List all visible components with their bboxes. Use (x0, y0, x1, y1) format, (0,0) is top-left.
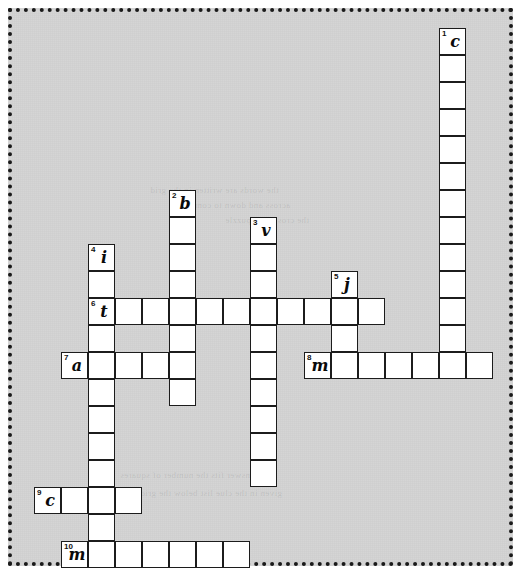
crossword-cell[interactable] (439, 271, 466, 298)
crossword-cell[interactable] (88, 514, 115, 541)
crossword-cell[interactable] (169, 271, 196, 298)
crossword-cell[interactable] (250, 433, 277, 460)
crossword-cell[interactable] (358, 352, 385, 379)
crossword-cell[interactable] (304, 298, 331, 325)
cell-letter: v (251, 218, 276, 243)
crossword-cell[interactable] (115, 352, 142, 379)
crossword-cell-numbered-3[interactable]: 3v (250, 217, 277, 244)
crossword-cell-numbered-1[interactable]: 1c (439, 28, 466, 55)
crossword-cell[interactable] (250, 298, 277, 325)
cell-letter: m (305, 353, 330, 378)
crossword-cell[interactable] (277, 298, 304, 325)
crossword-cell[interactable] (169, 541, 196, 568)
crossword-cell[interactable] (250, 244, 277, 271)
crossword-page: the words are written in the gridacross … (0, 0, 521, 574)
crossword-cell[interactable] (196, 298, 223, 325)
crossword-cell[interactable] (439, 325, 466, 352)
crossword-cell[interactable] (169, 379, 196, 406)
crossword-cell[interactable] (250, 271, 277, 298)
cell-letter: c (35, 488, 60, 513)
crossword-cell[interactable] (169, 244, 196, 271)
crossword-cell-numbered-8[interactable]: 8m (304, 352, 331, 379)
crossword-cell[interactable] (412, 352, 439, 379)
crossword-cell[interactable] (439, 163, 466, 190)
crossword-cell[interactable] (250, 325, 277, 352)
crossword-cell[interactable] (250, 460, 277, 487)
crossword-cell[interactable] (88, 433, 115, 460)
crossword-cell[interactable] (169, 298, 196, 325)
crossword-cell-numbered-5[interactable]: 5j (331, 271, 358, 298)
crossword-cell[interactable] (88, 460, 115, 487)
crossword-cell[interactable] (88, 406, 115, 433)
crossword-cell[interactable] (142, 352, 169, 379)
crossword-cell[interactable] (439, 190, 466, 217)
cell-letter: b (170, 191, 195, 216)
crossword-cell[interactable] (385, 352, 412, 379)
crossword-cell[interactable] (439, 217, 466, 244)
crossword-cell[interactable] (115, 541, 142, 568)
crossword-cell[interactable] (88, 352, 115, 379)
crossword-cell-numbered-4[interactable]: 4i (88, 244, 115, 271)
crossword-cell[interactable] (142, 298, 169, 325)
crossword-cell-numbered-2[interactable]: 2b (169, 190, 196, 217)
crossword-cell[interactable] (439, 55, 466, 82)
crossword-cell[interactable] (331, 298, 358, 325)
crossword-cell[interactable] (439, 136, 466, 163)
crossword-cell[interactable] (439, 82, 466, 109)
cell-letter: c (440, 29, 465, 54)
crossword-cell[interactable] (331, 325, 358, 352)
cell-letter: t (89, 299, 114, 324)
crossword-cell-numbered-6[interactable]: 6t (88, 298, 115, 325)
crossword-cell[interactable] (466, 352, 493, 379)
crossword-cell[interactable] (88, 325, 115, 352)
crossword-cell-numbered-9[interactable]: 9c (34, 487, 61, 514)
cell-letter: m (62, 542, 87, 567)
crossword-cell[interactable] (115, 487, 142, 514)
crossword-cell[interactable] (358, 298, 385, 325)
crossword-cell[interactable] (61, 487, 88, 514)
crossword-cell[interactable] (88, 271, 115, 298)
crossword-cell[interactable] (250, 352, 277, 379)
crossword-cell[interactable] (439, 352, 466, 379)
crossword-cell[interactable] (439, 109, 466, 136)
crossword-cell[interactable] (142, 541, 169, 568)
crossword-grid[interactable]: 1c2b3v4i6t5j7a8m9c10m (0, 0, 521, 574)
crossword-cell[interactable] (250, 379, 277, 406)
crossword-cell[interactable] (169, 325, 196, 352)
cell-letter: a (62, 353, 87, 378)
crossword-cell[interactable] (115, 298, 142, 325)
crossword-cell[interactable] (88, 487, 115, 514)
crossword-cell[interactable] (223, 298, 250, 325)
crossword-cell[interactable] (169, 217, 196, 244)
crossword-cell[interactable] (88, 379, 115, 406)
crossword-cell[interactable] (439, 244, 466, 271)
crossword-cell[interactable] (439, 298, 466, 325)
crossword-cell-numbered-7[interactable]: 7a (61, 352, 88, 379)
crossword-cell[interactable] (250, 406, 277, 433)
crossword-cell[interactable] (331, 352, 358, 379)
crossword-cell-numbered-10[interactable]: 10m (61, 541, 88, 568)
crossword-cell[interactable] (169, 352, 196, 379)
crossword-cell[interactable] (196, 541, 223, 568)
crossword-cell[interactable] (88, 541, 115, 568)
crossword-cell[interactable] (223, 541, 250, 568)
cell-letter: i (89, 245, 114, 270)
cell-letter: j (332, 272, 357, 297)
